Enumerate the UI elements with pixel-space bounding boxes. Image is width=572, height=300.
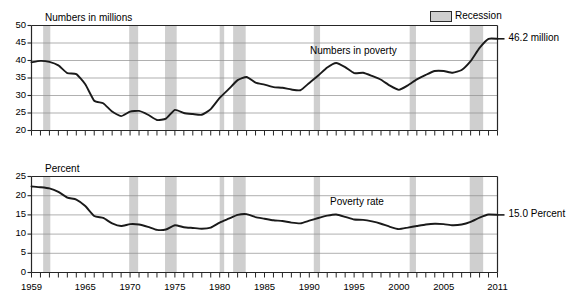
y-tick-label: 15 bbox=[0, 209, 26, 219]
end-annotation-numbers-in-poverty: 46.2 million bbox=[509, 32, 560, 43]
recession-band bbox=[233, 177, 246, 273]
x-tick-label: 1975 bbox=[155, 281, 195, 292]
x-tick-label: 1970 bbox=[110, 281, 150, 292]
x-tick-label: 1995 bbox=[334, 281, 374, 292]
y-tick-label: 50 bbox=[0, 20, 26, 30]
y-tick-label: 20 bbox=[0, 125, 26, 135]
x-tick-label: 2011 bbox=[478, 281, 518, 292]
data-line-numbers-in-poverty bbox=[32, 38, 498, 120]
y-tick-label: 10 bbox=[0, 228, 26, 238]
x-tick-label: 1965 bbox=[65, 281, 105, 292]
x-tick-label: 1990 bbox=[289, 281, 329, 292]
panel-unit-title-numbers-in-poverty: Numbers in millions bbox=[45, 12, 132, 23]
panel-poverty-rate bbox=[28, 177, 505, 278]
y-tick-label: 25 bbox=[0, 107, 26, 117]
poverty-figure: Numbers in millions20253035404550Numbers… bbox=[0, 0, 572, 300]
y-tick-label: 30 bbox=[0, 90, 26, 100]
recession-legend-label: Recession bbox=[455, 10, 502, 21]
y-tick-label: 0 bbox=[0, 267, 26, 277]
x-tick-label: 2000 bbox=[379, 281, 419, 292]
recession-band bbox=[470, 177, 483, 273]
y-tick-label: 5 bbox=[0, 247, 26, 257]
x-tick-label: 2005 bbox=[424, 281, 464, 292]
end-annotation-poverty-rate: 15.0 Percent bbox=[509, 208, 566, 219]
data-line-poverty-rate bbox=[32, 186, 498, 229]
recession-band bbox=[43, 177, 50, 273]
y-tick-label: 35 bbox=[0, 72, 26, 82]
y-tick-label: 20 bbox=[0, 190, 26, 200]
x-tick-label: 1980 bbox=[200, 281, 240, 292]
y-tick-label: 45 bbox=[0, 37, 26, 47]
series-label-numbers-in-poverty: Numbers in poverty bbox=[310, 45, 397, 56]
chart-canvas bbox=[0, 0, 572, 300]
y-tick-label: 40 bbox=[0, 55, 26, 65]
panel-unit-title-poverty-rate: Percent bbox=[45, 163, 79, 174]
recession-band bbox=[220, 177, 224, 273]
recession-legend-swatch bbox=[430, 11, 452, 22]
recession-band bbox=[314, 177, 320, 273]
panel-numbers-in-poverty bbox=[28, 26, 505, 136]
series-label-poverty-rate: Poverty rate bbox=[330, 196, 384, 207]
x-tick-label: 1959 bbox=[12, 281, 52, 292]
x-tick-label: 1985 bbox=[245, 281, 285, 292]
recession-band bbox=[410, 177, 416, 273]
y-tick-label: 25 bbox=[0, 171, 26, 181]
